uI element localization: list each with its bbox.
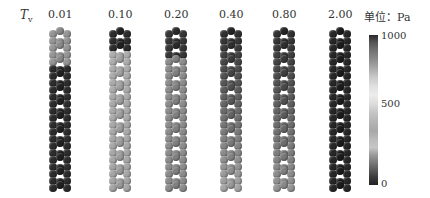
sphere-column-4 (271, 28, 297, 192)
sphere-column-1 (107, 28, 133, 192)
sphere (280, 125, 288, 133)
column-label-3: 0.40 (219, 8, 244, 21)
sphere (172, 139, 180, 147)
sphere (280, 69, 288, 77)
sphere (287, 184, 295, 192)
sphere (116, 139, 124, 147)
sphere (56, 153, 64, 161)
sphere (172, 97, 180, 105)
sphere (227, 69, 235, 77)
sphere (116, 97, 124, 105)
sphere (336, 167, 344, 175)
sphere (227, 167, 235, 175)
sphere (56, 167, 64, 175)
sphere (116, 69, 124, 77)
sphere (172, 69, 180, 77)
column-label-2: 0.20 (164, 8, 189, 21)
sphere (280, 41, 288, 49)
sphere (56, 55, 64, 63)
sphere (336, 41, 344, 49)
sphere (336, 125, 344, 133)
sphere (280, 111, 288, 119)
sphere (336, 83, 344, 91)
sphere (56, 69, 64, 77)
sphere (172, 153, 180, 161)
sphere (56, 139, 64, 147)
colorbar-max-label: 1000 (381, 30, 406, 41)
sphere (227, 139, 235, 147)
sphere (56, 27, 64, 35)
sphere (56, 111, 64, 119)
sphere (172, 27, 180, 35)
unit-label: 单位：Pa (364, 8, 410, 24)
sphere (172, 111, 180, 119)
sphere (116, 41, 124, 49)
sphere (227, 27, 235, 35)
sphere (123, 184, 131, 192)
sphere (63, 184, 71, 192)
sphere (116, 111, 124, 119)
sphere (280, 27, 288, 35)
sphere (227, 181, 235, 189)
sphere (227, 83, 235, 91)
colorbar (369, 35, 378, 185)
column-label-0: 0.01 (48, 8, 73, 21)
sphere (172, 41, 180, 49)
sphere (179, 184, 187, 192)
sphere (280, 97, 288, 105)
sphere (336, 181, 344, 189)
sphere (172, 181, 180, 189)
sphere (343, 184, 351, 192)
sphere (56, 41, 64, 49)
sphere (336, 139, 344, 147)
sphere (280, 83, 288, 91)
sphere (336, 27, 344, 35)
sphere (280, 167, 288, 175)
sphere (336, 153, 344, 161)
sphere (280, 139, 288, 147)
sphere (56, 125, 64, 133)
column-label-1: 0.10 (108, 8, 133, 21)
column-label-5: 2.00 (328, 8, 353, 21)
sphere (280, 55, 288, 63)
sphere (227, 55, 235, 63)
column-label-4: 0.80 (272, 8, 297, 21)
sphere (336, 69, 344, 77)
sphere (56, 97, 64, 105)
sphere (116, 181, 124, 189)
sphere (227, 41, 235, 49)
sphere (336, 55, 344, 63)
sphere (172, 125, 180, 133)
sphere (116, 125, 124, 133)
sphere (280, 153, 288, 161)
sphere (227, 111, 235, 119)
sphere (56, 83, 64, 91)
sphere-column-5 (327, 28, 353, 192)
sphere (172, 55, 180, 63)
colorbar-min-label: 0 (381, 178, 387, 189)
sphere (116, 55, 124, 63)
sphere (336, 97, 344, 105)
tv-label: Tv (20, 8, 33, 24)
sphere (116, 153, 124, 161)
colorbar-mid-label: 500 (381, 98, 400, 109)
sphere (116, 27, 124, 35)
sphere (56, 181, 64, 189)
sphere-column-0 (47, 28, 73, 192)
sphere (116, 83, 124, 91)
sphere (227, 97, 235, 105)
sphere (234, 184, 242, 192)
sphere (227, 153, 235, 161)
sphere-column-2 (163, 28, 189, 192)
sphere (172, 83, 180, 91)
sphere (116, 167, 124, 175)
sphere (280, 181, 288, 189)
sphere (172, 167, 180, 175)
sphere (227, 125, 235, 133)
sphere (336, 111, 344, 119)
sphere-column-3 (218, 28, 244, 192)
